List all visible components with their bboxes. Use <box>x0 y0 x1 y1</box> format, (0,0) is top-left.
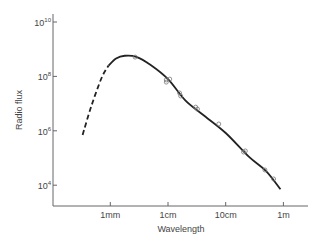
x-axis-title: Wavelength <box>157 224 204 234</box>
radio-flux-chart: 1010108106104 1mm1cm10cm1m Wavelength Ra… <box>0 0 323 246</box>
y-tick-label: 104 <box>38 180 52 191</box>
x-tick-label: 1cm <box>159 210 176 220</box>
y-tick-label: 1010 <box>34 17 51 28</box>
x-tick-label: 1m <box>277 210 290 220</box>
x-tick-label: 10cm <box>215 210 237 220</box>
x-axis: 1mm1cm10cm1m <box>53 202 308 220</box>
y-tick-label: 106 <box>38 126 52 137</box>
y-tick-label: 108 <box>38 71 52 82</box>
extrapolated-curve <box>83 66 109 135</box>
y-axis: 1010108106104 <box>34 14 57 206</box>
series-layer <box>83 55 281 189</box>
x-tick-label: 1mm <box>100 210 120 220</box>
observation-marker <box>217 122 221 126</box>
y-axis-title: Radio flux <box>14 89 24 130</box>
fitted-curve <box>109 56 281 190</box>
